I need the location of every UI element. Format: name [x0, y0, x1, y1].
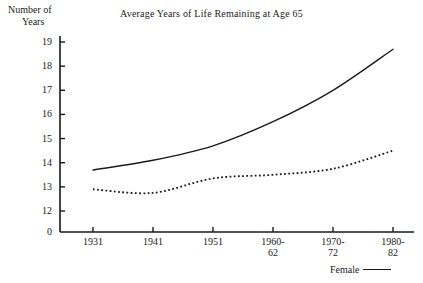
- chart-container: Number of Years Average Years of Life Re…: [0, 0, 423, 283]
- y-tick-label: 14: [28, 158, 52, 168]
- x-tick-label: 1980-82: [363, 236, 423, 258]
- legend-label-female: Female: [330, 264, 359, 275]
- x-tick-label: 1970-72: [303, 236, 363, 258]
- y-tick-label: 13: [28, 182, 52, 192]
- series-line-male: [93, 151, 393, 194]
- data-series: [93, 49, 393, 193]
- series-line-female: [93, 49, 393, 170]
- y-tick-label: 18: [28, 61, 52, 71]
- legend: Female: [330, 264, 391, 275]
- y-tick-label: 19: [28, 37, 52, 47]
- x-tick-label: 1960-62: [243, 236, 303, 258]
- x-tick-label: 1941: [123, 236, 183, 247]
- x-tick-label: 1951: [183, 236, 243, 247]
- legend-swatch-female-solid-line: [363, 269, 391, 270]
- axes: [60, 36, 414, 232]
- y-tick-label: 15: [28, 134, 52, 144]
- axis-ticks: [60, 42, 393, 232]
- y-tick-label: 0: [28, 227, 52, 237]
- y-tick-label: 17: [28, 85, 52, 95]
- x-tick-label: 1931: [63, 236, 123, 247]
- y-tick-label: 16: [28, 109, 52, 119]
- y-tick-label: 12: [28, 206, 52, 216]
